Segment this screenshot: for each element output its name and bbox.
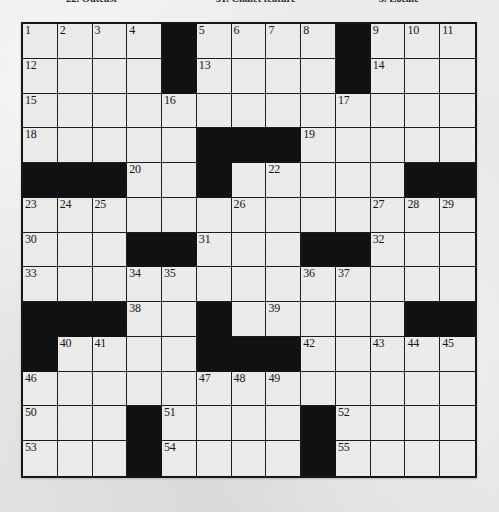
grid-open-cell[interactable]: 13 bbox=[197, 59, 232, 94]
grid-open-cell[interactable]: 36 bbox=[301, 267, 336, 302]
grid-open-cell[interactable] bbox=[371, 163, 406, 198]
grid-open-cell[interactable] bbox=[58, 233, 93, 268]
grid-open-cell[interactable]: 52 bbox=[336, 406, 371, 441]
grid-open-cell[interactable]: 28 bbox=[405, 198, 440, 233]
grid-open-cell[interactable] bbox=[336, 372, 371, 407]
grid-open-cell[interactable] bbox=[93, 441, 128, 476]
grid-open-cell[interactable] bbox=[162, 198, 197, 233]
grid-open-cell[interactable] bbox=[440, 267, 475, 302]
grid-open-cell[interactable] bbox=[232, 267, 267, 302]
grid-open-cell[interactable] bbox=[336, 337, 371, 372]
grid-open-cell[interactable]: 15 bbox=[23, 94, 58, 129]
grid-open-cell[interactable]: 44 bbox=[405, 337, 440, 372]
grid-open-cell[interactable] bbox=[58, 372, 93, 407]
grid-open-cell[interactable] bbox=[336, 302, 371, 337]
grid-open-cell[interactable]: 35 bbox=[162, 267, 197, 302]
grid-open-cell[interactable] bbox=[405, 441, 440, 476]
grid-open-cell[interactable] bbox=[371, 372, 406, 407]
grid-open-cell[interactable] bbox=[405, 94, 440, 129]
grid-open-cell[interactable] bbox=[58, 267, 93, 302]
grid-open-cell[interactable] bbox=[93, 372, 128, 407]
grid-open-cell[interactable] bbox=[266, 441, 301, 476]
grid-open-cell[interactable]: 25 bbox=[93, 198, 128, 233]
grid-open-cell[interactable] bbox=[301, 302, 336, 337]
crossword-grid[interactable]: 1234567891011121314151617181920222324252… bbox=[21, 22, 477, 478]
grid-open-cell[interactable] bbox=[232, 233, 267, 268]
grid-open-cell[interactable]: 27 bbox=[371, 198, 406, 233]
grid-open-cell[interactable] bbox=[440, 406, 475, 441]
grid-open-cell[interactable] bbox=[127, 94, 162, 129]
grid-open-cell[interactable]: 26 bbox=[232, 198, 267, 233]
grid-open-cell[interactable] bbox=[405, 372, 440, 407]
grid-open-cell[interactable] bbox=[371, 441, 406, 476]
grid-open-cell[interactable]: 8 bbox=[301, 24, 336, 59]
grid-open-cell[interactable] bbox=[405, 59, 440, 94]
grid-open-cell[interactable]: 40 bbox=[58, 337, 93, 372]
grid-open-cell[interactable]: 32 bbox=[371, 233, 406, 268]
grid-open-cell[interactable] bbox=[405, 233, 440, 268]
grid-open-cell[interactable] bbox=[93, 267, 128, 302]
grid-open-cell[interactable] bbox=[301, 372, 336, 407]
grid-open-cell[interactable] bbox=[440, 128, 475, 163]
grid-open-cell[interactable] bbox=[301, 163, 336, 198]
grid-open-cell[interactable]: 23 bbox=[23, 198, 58, 233]
grid-open-cell[interactable] bbox=[93, 233, 128, 268]
grid-open-cell[interactable]: 3 bbox=[93, 24, 128, 59]
grid-open-cell[interactable]: 43 bbox=[371, 337, 406, 372]
grid-open-cell[interactable]: 39 bbox=[266, 302, 301, 337]
grid-open-cell[interactable] bbox=[371, 267, 406, 302]
grid-open-cell[interactable] bbox=[58, 59, 93, 94]
grid-open-cell[interactable] bbox=[162, 302, 197, 337]
grid-open-cell[interactable]: 30 bbox=[23, 233, 58, 268]
grid-open-cell[interactable]: 51 bbox=[162, 406, 197, 441]
grid-open-cell[interactable] bbox=[127, 372, 162, 407]
grid-open-cell[interactable]: 41 bbox=[93, 337, 128, 372]
grid-open-cell[interactable] bbox=[127, 198, 162, 233]
grid-open-cell[interactable]: 50 bbox=[23, 406, 58, 441]
grid-open-cell[interactable] bbox=[405, 128, 440, 163]
grid-open-cell[interactable]: 46 bbox=[23, 372, 58, 407]
grid-open-cell[interactable] bbox=[440, 233, 475, 268]
grid-open-cell[interactable] bbox=[58, 406, 93, 441]
grid-open-cell[interactable] bbox=[232, 94, 267, 129]
grid-open-cell[interactable]: 48 bbox=[232, 372, 267, 407]
grid-open-cell[interactable] bbox=[371, 94, 406, 129]
grid-open-cell[interactable] bbox=[266, 267, 301, 302]
grid-open-cell[interactable] bbox=[232, 406, 267, 441]
grid-open-cell[interactable]: 45 bbox=[440, 337, 475, 372]
grid-open-cell[interactable] bbox=[336, 198, 371, 233]
grid-open-cell[interactable] bbox=[127, 337, 162, 372]
grid-open-cell[interactable]: 47 bbox=[197, 372, 232, 407]
grid-open-cell[interactable]: 42 bbox=[301, 337, 336, 372]
grid-open-cell[interactable]: 33 bbox=[23, 267, 58, 302]
grid-open-cell[interactable]: 54 bbox=[162, 441, 197, 476]
grid-open-cell[interactable]: 4 bbox=[127, 24, 162, 59]
grid-open-cell[interactable] bbox=[266, 233, 301, 268]
grid-open-cell[interactable] bbox=[58, 128, 93, 163]
grid-open-cell[interactable] bbox=[440, 59, 475, 94]
grid-open-cell[interactable] bbox=[232, 163, 267, 198]
grid-open-cell[interactable]: 24 bbox=[58, 198, 93, 233]
grid-open-cell[interactable] bbox=[371, 406, 406, 441]
grid-open-cell[interactable]: 49 bbox=[266, 372, 301, 407]
grid-open-cell[interactable] bbox=[93, 128, 128, 163]
grid-open-cell[interactable]: 5 bbox=[197, 24, 232, 59]
grid-open-cell[interactable]: 20 bbox=[127, 163, 162, 198]
grid-open-cell[interactable]: 6 bbox=[232, 24, 267, 59]
grid-open-cell[interactable] bbox=[440, 94, 475, 129]
grid-open-cell[interactable] bbox=[405, 406, 440, 441]
grid-open-cell[interactable] bbox=[127, 59, 162, 94]
grid-open-cell[interactable]: 31 bbox=[197, 233, 232, 268]
grid-open-cell[interactable]: 18 bbox=[23, 128, 58, 163]
grid-open-cell[interactable] bbox=[266, 198, 301, 233]
grid-open-cell[interactable] bbox=[336, 128, 371, 163]
grid-open-cell[interactable] bbox=[93, 59, 128, 94]
grid-open-cell[interactable] bbox=[232, 302, 267, 337]
grid-open-cell[interactable] bbox=[93, 406, 128, 441]
grid-open-cell[interactable]: 34 bbox=[127, 267, 162, 302]
grid-open-cell[interactable] bbox=[371, 128, 406, 163]
grid-open-cell[interactable] bbox=[197, 441, 232, 476]
grid-open-cell[interactable]: 2 bbox=[58, 24, 93, 59]
grid-open-cell[interactable] bbox=[162, 372, 197, 407]
grid-open-cell[interactable] bbox=[440, 372, 475, 407]
